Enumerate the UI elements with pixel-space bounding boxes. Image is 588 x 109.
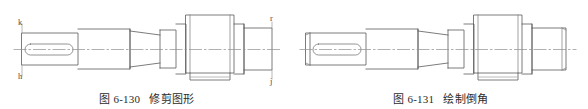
figure-caption-6-131: 图 6-131 绘制倒角 <box>294 86 588 109</box>
figure-number: 图 6-131 <box>393 90 434 106</box>
shaft-collar-right-outline <box>522 24 532 74</box>
boss-bottom-flange <box>478 73 518 80</box>
figure-title: 修剪图形 <box>149 90 195 106</box>
shaft-collar-left-outline <box>464 24 474 74</box>
chamfer-right-bevel <box>562 28 566 70</box>
shaft-right-end-outline <box>244 28 272 70</box>
shaft-left-end-outline <box>22 33 78 65</box>
shaft-drawing-chamfered <box>294 0 588 86</box>
label-r: r <box>270 13 273 23</box>
shaft-collar-right-outline <box>234 24 244 74</box>
shaft-drawing-trimmed: k h r j <box>0 0 294 86</box>
label-j: j <box>269 76 272 86</box>
central-boss-outline <box>474 15 522 73</box>
figure-6-131: 图 6-131 绘制倒角 <box>294 0 588 109</box>
shaft-collar-left-outline <box>176 24 186 74</box>
figure-6-130: k h r j 图 6-130 修剪图形 <box>0 0 294 109</box>
shaft-right-end-outline <box>532 28 566 70</box>
shaft-section-3-outline <box>448 30 464 68</box>
shaft-taper-outline <box>418 31 448 67</box>
shaft-left-end-outline <box>306 33 366 65</box>
shaft-section-2-outline <box>366 29 418 69</box>
shaft-taper-outline <box>130 31 160 67</box>
figure-page: k h r j 图 6-130 修剪图形 <box>0 0 588 109</box>
shaft-section-2-outline <box>78 29 130 69</box>
boss-bottom-flange <box>190 73 230 80</box>
central-boss-outline <box>186 15 234 73</box>
chamfer-left-bevel <box>306 33 310 65</box>
shaft-section-3-outline <box>160 30 176 68</box>
figure-title: 绘制倒角 <box>443 90 489 106</box>
figure-caption-6-130: 图 6-130 修剪图形 <box>0 86 294 109</box>
figure-number: 图 6-130 <box>99 90 140 106</box>
